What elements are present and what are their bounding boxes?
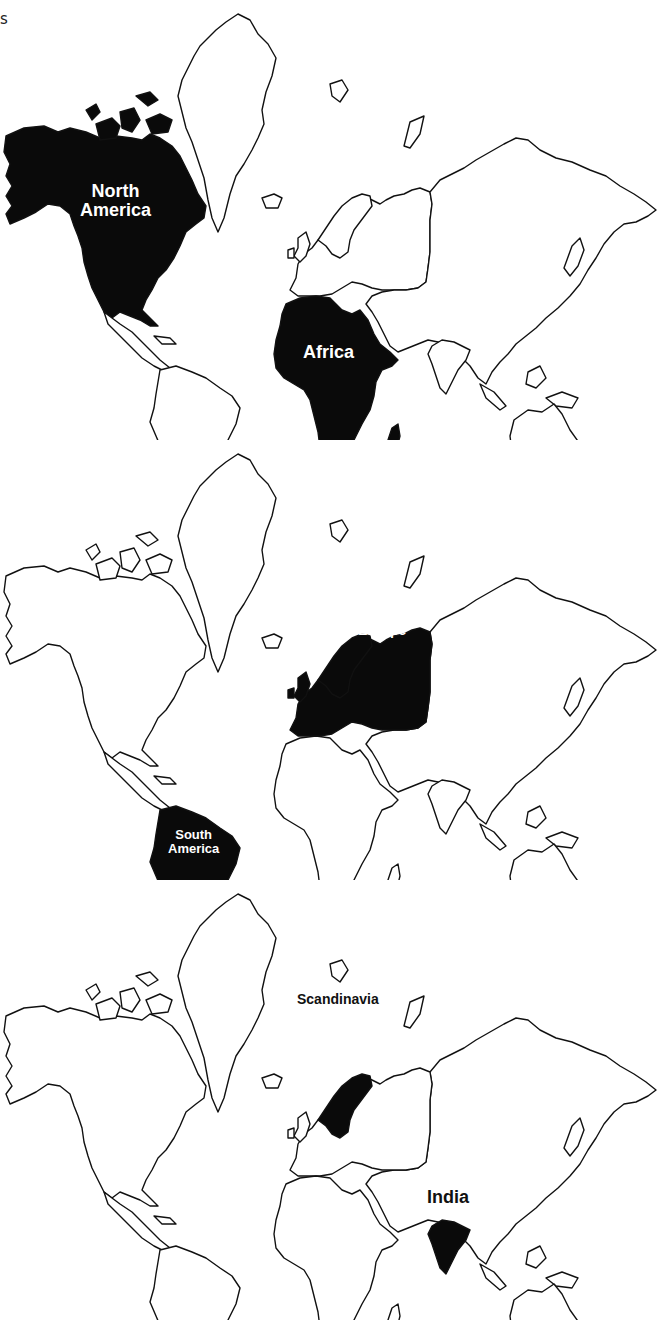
south-america-shape	[150, 1246, 240, 1320]
arctic-island-shape	[120, 548, 140, 572]
ireland-shape	[288, 688, 294, 698]
india-shape	[428, 340, 470, 394]
borneo-shape	[526, 366, 546, 388]
europe-label: Europe	[358, 623, 406, 638]
novaya-zemlya-shape	[404, 116, 424, 148]
south-america-label: South America	[168, 828, 219, 855]
north-america-label: North America	[80, 182, 151, 220]
arctic-island-shape	[146, 994, 172, 1014]
iceland-shape	[262, 1074, 282, 1088]
novaya-zemlya-shape	[404, 556, 424, 588]
arctic-island-shape	[96, 998, 120, 1020]
arctic-island-shape	[120, 988, 140, 1012]
world-map-3	[0, 880, 664, 1320]
india-shape	[428, 1220, 470, 1274]
arctic-island-shape	[136, 972, 158, 986]
india-shape	[428, 780, 470, 834]
india-label: India	[427, 1188, 469, 1207]
borneo-shape	[526, 806, 546, 828]
world-map-1	[0, 0, 664, 440]
novaya-zemlya-shape	[404, 996, 424, 1028]
australia-shape	[510, 404, 584, 440]
sumatra-shape	[480, 824, 506, 850]
ireland-shape	[288, 1128, 294, 1138]
arctic-island-shape	[136, 532, 158, 546]
north-america-shape	[4, 126, 206, 326]
arctic-island-shape	[146, 554, 172, 574]
madagascar-shape	[388, 1304, 400, 1320]
svalbard-shape	[330, 80, 348, 102]
map-panel-1: North America Africa	[0, 0, 664, 440]
australia-shape	[510, 1284, 584, 1320]
arctic-island-shape	[96, 118, 120, 140]
svalbard-shape	[330, 520, 348, 542]
north-america-shape	[4, 1006, 206, 1206]
africa-label: Africa	[303, 343, 354, 362]
map-panel-2: Europe South America	[0, 440, 664, 880]
arctic-island-shape	[86, 984, 100, 1000]
australia-shape	[510, 844, 584, 880]
cuba-shape	[154, 336, 176, 344]
cuba-shape	[154, 1216, 176, 1224]
iceland-shape	[262, 194, 282, 208]
cuba-shape	[154, 776, 176, 784]
borneo-shape	[526, 1246, 546, 1268]
sumatra-shape	[480, 384, 506, 410]
south-america-shape	[150, 366, 240, 440]
arctic-island-shape	[146, 114, 172, 134]
ireland-shape	[288, 248, 294, 258]
svalbard-shape	[330, 960, 348, 982]
scandinavia-label: Scandinavia	[297, 992, 379, 1007]
arctic-island-shape	[86, 544, 100, 560]
arctic-island-shape	[96, 558, 120, 580]
sumatra-shape	[480, 1264, 506, 1290]
arctic-island-shape	[86, 104, 100, 120]
world-map-2	[0, 440, 664, 880]
map-panel-3: Scandinavia India	[0, 880, 664, 1320]
iceland-shape	[262, 634, 282, 648]
madagascar-shape	[388, 864, 400, 880]
arctic-island-shape	[120, 108, 140, 132]
north-america-shape	[4, 566, 206, 766]
arctic-island-shape	[136, 92, 158, 106]
madagascar-shape	[388, 424, 400, 440]
